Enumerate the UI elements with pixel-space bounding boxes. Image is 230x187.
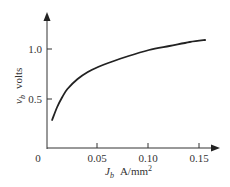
x-tick-label: 0.10 xyxy=(138,152,158,164)
y-axis-label: vbvolts xyxy=(12,68,27,104)
x-axis-arrow-icon xyxy=(211,145,220,152)
y-tick-label: 0.5 xyxy=(28,93,42,105)
y-axis-arrow-icon xyxy=(44,12,51,21)
x-tick-label: 0.05 xyxy=(87,152,107,164)
origin-label: 0 xyxy=(35,152,41,164)
chart: 0 0.05 0.10 0.15 0.5 1.0 JbA/mm2 vbvolts xyxy=(0,0,230,187)
x-tick-label: 0.15 xyxy=(189,152,209,164)
data-curve xyxy=(52,40,205,120)
x-axis-label: JbA/mm2 xyxy=(105,164,152,180)
y-tick-label: 1.0 xyxy=(28,43,42,55)
svg-text:vbvolts: vbvolts xyxy=(12,68,27,104)
